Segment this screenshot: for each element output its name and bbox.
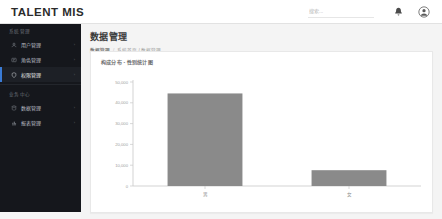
sidebar-divider bbox=[0, 84, 81, 85]
sidebar-item-label: 角色管理 bbox=[21, 56, 74, 63]
chart-card: 构成分布 - 性别统计图 010,00020,00030,00040,00050… bbox=[90, 51, 433, 213]
shield-icon bbox=[10, 71, 17, 78]
sidebar-section-title-business: 业务中心 bbox=[0, 87, 81, 100]
chevron-right-icon: › bbox=[74, 105, 75, 110]
sidebar-item-permission-management[interactable]: 权限管理 › bbox=[0, 67, 81, 82]
sidebar-item-role-management[interactable]: 角色管理 › bbox=[0, 52, 81, 67]
top-bar: TALENT MIS bbox=[0, 0, 442, 24]
bell-icon[interactable] bbox=[392, 5, 404, 19]
y-axis-tick-label: 40,000 bbox=[115, 100, 128, 105]
sidebar-item-label: 数据管理 bbox=[21, 104, 74, 111]
page-header: 数据管理 数据管理 / 系统首页 / 数据管理 bbox=[81, 24, 442, 53]
page-title: 数据管理 bbox=[90, 30, 442, 43]
chart-title: 构成分布 - 性别统计图 bbox=[91, 52, 432, 65]
role-icon bbox=[10, 56, 17, 63]
chevron-right-icon: › bbox=[74, 72, 75, 77]
chevron-right-icon: › bbox=[74, 42, 75, 47]
sidebar-item-data-management[interactable]: 数据管理 › bbox=[0, 100, 81, 115]
chart-canvas: 010,00020,00030,00040,00050,000男女 bbox=[91, 68, 434, 214]
y-axis-tick-label: 50,000 bbox=[115, 80, 128, 85]
sidebar-item-label: 用户管理 bbox=[21, 41, 74, 48]
app-root: TALENT MIS 系统管理 bbox=[0, 0, 442, 219]
sidebar: 系统管理 用户管理 › 角色管理 › bbox=[0, 24, 81, 212]
sidebar-item-label: 权限管理 bbox=[21, 71, 74, 78]
sidebar-section-title-system: 系统管理 bbox=[0, 24, 81, 37]
search-input[interactable] bbox=[308, 5, 374, 17]
y-axis-tick-label: 0 bbox=[126, 184, 129, 189]
chevron-right-icon: › bbox=[74, 120, 75, 125]
bar[interactable] bbox=[312, 170, 387, 186]
sidebar-item-label: 报表管理 bbox=[21, 119, 74, 126]
bar-chart: 010,00020,00030,00040,00050,000男女 bbox=[91, 68, 434, 214]
user-icon bbox=[10, 41, 17, 48]
app-logo[interactable]: TALENT MIS bbox=[0, 0, 100, 24]
x-axis-tick-label: 男 bbox=[203, 192, 208, 198]
chart-icon bbox=[10, 119, 17, 126]
sidebar-item-user-management[interactable]: 用户管理 › bbox=[0, 37, 81, 52]
y-axis-tick-label: 20,000 bbox=[115, 142, 128, 147]
search-box[interactable] bbox=[308, 6, 374, 18]
chevron-right-icon: › bbox=[74, 57, 75, 62]
bar[interactable] bbox=[168, 93, 243, 186]
database-icon bbox=[10, 104, 17, 111]
main-content: 数据管理 数据管理 / 系统首页 / 数据管理 构成分布 - 性别统计图 010… bbox=[81, 24, 442, 219]
y-axis-tick-label: 30,000 bbox=[115, 121, 128, 126]
y-axis-tick-label: 10,000 bbox=[115, 163, 128, 168]
sidebar-item-report-management[interactable]: 报表管理 › bbox=[0, 115, 81, 130]
x-axis-tick-label: 女 bbox=[347, 191, 352, 198]
user-avatar-icon[interactable] bbox=[417, 5, 430, 18]
